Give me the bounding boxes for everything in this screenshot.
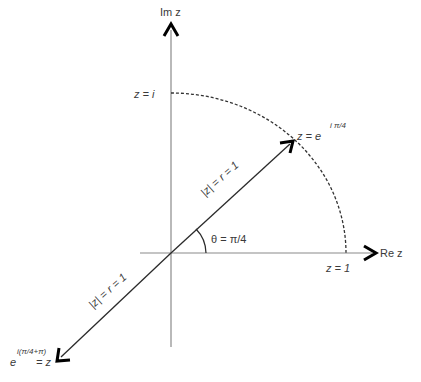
svg-text:= z: = z xyxy=(36,356,51,368)
point-label-e-i-pi-4: z = e i π/4 xyxy=(296,121,347,142)
imaginary-axis xyxy=(164,24,178,347)
modulus-label-upper: |z| = r = 1 xyxy=(198,159,240,199)
point-label-z-1: z = 1 xyxy=(325,262,350,274)
svg-text:z = e: z = e xyxy=(296,130,321,142)
modulus-label-lower: |z| = r = 1 xyxy=(86,271,128,311)
svg-text:i(π/4+π): i(π/4+π) xyxy=(17,347,47,356)
real-axis-label: Re z xyxy=(380,247,403,259)
angle-label: θ = π/4 xyxy=(211,233,246,245)
angle-arc xyxy=(196,229,206,253)
point-label-z-i: z = i xyxy=(133,88,155,100)
point-label-e-i-5pi-4: e i(π/4+π) = z xyxy=(10,347,51,368)
svg-text:e: e xyxy=(10,356,16,368)
svg-text:i π/4: i π/4 xyxy=(330,121,347,130)
imaginary-axis-label: Im z xyxy=(160,6,181,18)
complex-plane-diagram: Im z Re z z = i z = 1 z = e i π/4 e i(π/… xyxy=(0,0,421,382)
vector-e-i-5pi-4 xyxy=(57,253,171,361)
